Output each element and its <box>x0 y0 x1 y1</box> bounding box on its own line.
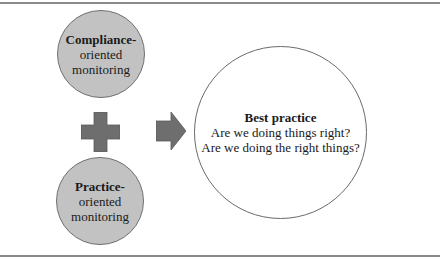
top-rule <box>0 2 440 4</box>
circle-line: Are we doing the right things? <box>201 140 360 155</box>
circle-title: Best practice <box>245 110 317 125</box>
circle-line: monitoring <box>71 209 129 224</box>
circle-line: monitoring <box>72 62 130 77</box>
practice-monitoring-circle: Practice- oriented monitoring <box>56 157 144 245</box>
plus-icon <box>81 112 120 152</box>
circle-title: Practice- <box>75 179 125 194</box>
circle-line: Are we doing things right? <box>211 125 350 140</box>
best-practice-circle: Best practice Are we doing things right?… <box>194 46 367 219</box>
circle-title: Compliance- <box>66 32 137 47</box>
compliance-monitoring-circle: Compliance- oriented monitoring <box>57 10 145 98</box>
bottom-rule <box>0 255 440 257</box>
arrow-right-icon <box>156 112 186 150</box>
circle-line: oriented <box>79 194 122 209</box>
circle-line: oriented <box>80 47 123 62</box>
